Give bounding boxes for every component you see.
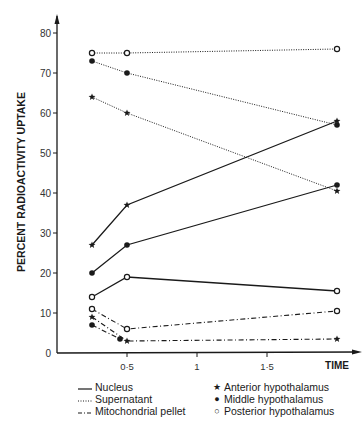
solid-line-swatch	[78, 384, 92, 390]
x-axis-arrow-icon	[352, 350, 362, 355]
y-tick-label: 70	[40, 68, 52, 79]
star-marker-icon	[334, 335, 341, 342]
star-marker-icon	[124, 109, 131, 116]
x-tick-label: 1·5	[260, 361, 274, 372]
filled-circle-marker-icon	[89, 58, 95, 64]
dashdot-line-swatch	[78, 408, 92, 414]
legend-label: Middle hypothalamus	[224, 393, 323, 405]
y-tick-label: 10	[40, 308, 52, 319]
star-icon: ★	[213, 381, 221, 393]
open-circle-marker-icon	[124, 50, 129, 55]
legend-label: Supernatant	[95, 393, 152, 405]
x-axis	[57, 352, 358, 353]
legend-regions: ★ Anterior hypothalamus ● Middle hypotha…	[213, 381, 334, 417]
series-mitochondrial-pellet-posterior	[89, 306, 339, 331]
filled-circle-marker-icon	[124, 242, 130, 248]
x-tick-label: 0·5	[120, 361, 134, 372]
open-circle-marker-icon	[89, 306, 94, 311]
star-marker-icon	[334, 187, 341, 194]
series-line	[92, 121, 337, 245]
filled-circle-marker-icon	[89, 322, 95, 328]
series-supernatant-middle	[89, 58, 340, 128]
legend-label: Nucleus	[95, 381, 133, 393]
y-tick-label: 0	[45, 348, 51, 359]
open-circle-marker-icon	[124, 326, 129, 331]
legend-label: Anterior hypothalamus	[224, 381, 329, 393]
series-nucleus-anterior	[89, 117, 341, 248]
y-tick-label: 50	[40, 148, 52, 159]
filled-circle-icon: ●	[213, 393, 221, 405]
legend-item-supernatant: Supernatant	[78, 393, 185, 405]
y-axis-label: PERCENT RADIOACTIVITY UPTAKE	[15, 92, 27, 272]
star-marker-icon	[124, 337, 131, 344]
open-circle-icon: ○	[213, 405, 221, 417]
series-supernatant-posterior	[89, 46, 339, 55]
legend-label: Posterior hypothalamus	[224, 405, 334, 417]
y-axis-arrow-icon	[55, 14, 60, 24]
filled-circle-marker-icon	[117, 336, 123, 342]
open-circle-marker-icon	[334, 288, 339, 293]
open-circle-marker-icon	[334, 46, 339, 51]
star-marker-icon	[89, 93, 96, 100]
open-circle-marker-icon	[334, 308, 339, 313]
series-supernatant-anterior	[89, 93, 341, 194]
axes: 010203040506070800·511·5	[40, 14, 362, 372]
line-chart: 010203040506070800·511·5 PERCENT RADIOAC…	[0, 0, 364, 428]
x-axis-label: TIME	[325, 360, 349, 371]
series-line	[92, 309, 337, 329]
open-circle-marker-icon	[124, 274, 129, 279]
legend-item-anterior: ★ Anterior hypothalamus	[213, 381, 334, 393]
filled-circle-marker-icon	[124, 70, 130, 76]
y-tick-label: 60	[40, 108, 52, 119]
legend-fractions: Nucleus Supernatant Mitochondrial pellet	[78, 381, 185, 417]
legend-item-mitochondrial-pellet: Mitochondrial pellet	[78, 405, 185, 417]
y-tick-label: 80	[40, 28, 52, 39]
open-circle-marker-icon	[89, 294, 94, 299]
y-tick-label: 40	[40, 188, 52, 199]
open-circle-marker-icon	[89, 50, 94, 55]
y-tick-label: 20	[40, 268, 52, 279]
series-layer	[89, 46, 341, 344]
x-tick-label: 1	[194, 361, 199, 372]
filled-circle-marker-icon	[334, 122, 340, 128]
legend-item-posterior: ○ Posterior hypothalamus	[213, 405, 334, 417]
legend-item-nucleus: Nucleus	[78, 381, 185, 393]
series-line	[92, 277, 337, 297]
legend-label: Mitochondrial pellet	[95, 405, 185, 417]
series-mitochondrial-pellet-middle	[89, 322, 123, 342]
series-nucleus-middle	[89, 182, 340, 276]
y-tick-label: 30	[40, 228, 52, 239]
series-line	[92, 185, 337, 273]
series-nucleus-posterior	[89, 274, 339, 299]
dotted-line-swatch	[78, 396, 92, 402]
filled-circle-marker-icon	[89, 270, 95, 276]
filled-circle-marker-icon	[334, 182, 340, 188]
series-line	[92, 325, 120, 339]
legend-item-middle: ● Middle hypothalamus	[213, 393, 334, 405]
series-line	[92, 97, 337, 191]
